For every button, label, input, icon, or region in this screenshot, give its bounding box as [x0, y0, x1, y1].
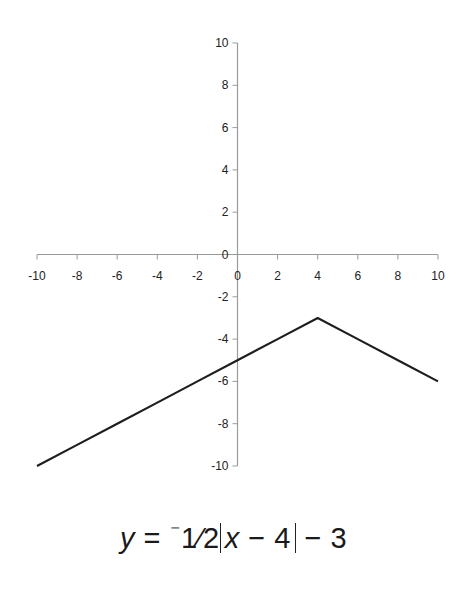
equation-negative-sign: ⁻	[170, 520, 182, 542]
x-tick-label: -4	[152, 269, 163, 283]
equation-minus-four: − 4	[240, 522, 291, 554]
x-tick-label: 10	[431, 269, 445, 283]
y-tick-label: 2	[222, 205, 229, 219]
x-tick-label: -6	[112, 269, 123, 283]
equation-minus-three: − 3	[296, 522, 347, 554]
axes	[37, 43, 438, 466]
equation-equals: =	[135, 522, 170, 554]
chart-plot: -10-8-6-4-20246810-10-8-6-4-20246810	[0, 0, 467, 500]
equation-x: x	[225, 522, 240, 554]
equation-y: y	[120, 522, 135, 554]
x-tick-label: -10	[28, 269, 46, 283]
x-tick-label: 2	[274, 269, 281, 283]
y-tick-label: -10	[211, 459, 229, 473]
x-tick-label: -2	[192, 269, 203, 283]
x-tick-label: 6	[354, 269, 361, 283]
y-tick-label: 10	[215, 36, 229, 50]
y-tick-label: -8	[218, 417, 229, 431]
x-tick-label: 8	[395, 269, 402, 283]
equation-coefficient: 1⁄2	[181, 522, 220, 554]
x-tick-label: -8	[72, 269, 83, 283]
x-tick-label: 0	[234, 269, 241, 283]
equation-label: y = ⁻1⁄2x − 4 − 3	[0, 522, 467, 555]
y-tick-label: 4	[222, 163, 229, 177]
x-tick-label: 4	[314, 269, 321, 283]
y-tick-label: 0	[222, 248, 229, 262]
y-tick-label: -2	[218, 290, 229, 304]
y-tick-label: -4	[218, 332, 229, 346]
equation-absolute-value: x − 4	[220, 523, 296, 553]
y-tick-label: 6	[222, 121, 229, 135]
y-tick-label: -6	[218, 374, 229, 388]
y-tick-label: 8	[222, 78, 229, 92]
